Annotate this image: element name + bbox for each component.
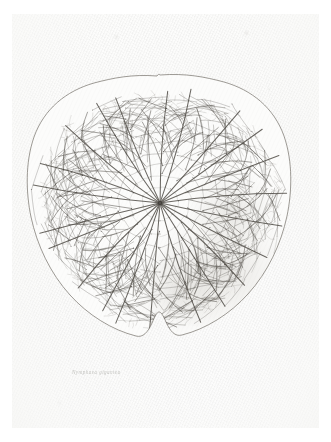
plate-canvas: Nymphaea gigantea (0, 0, 331, 442)
petiole-insertion-point (158, 201, 162, 205)
pencil-inscription: Nymphaea gigantea (72, 370, 121, 376)
leaf-illustration (0, 0, 331, 442)
